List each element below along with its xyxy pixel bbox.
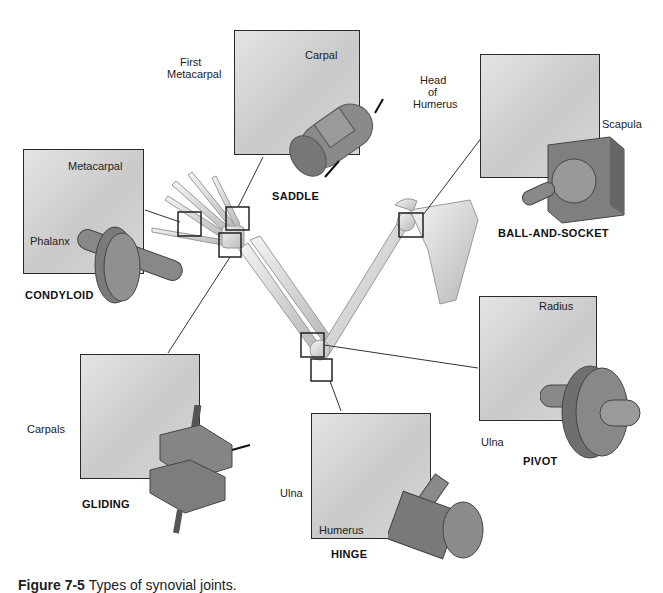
title-gliding: GLIDING xyxy=(82,498,130,510)
title-saddle: SADDLE xyxy=(272,190,319,202)
gliding-model-icon xyxy=(140,405,260,535)
label-ulna-pivot: Ulna xyxy=(481,436,504,448)
label-head: Head xyxy=(420,74,446,86)
label-of: of xyxy=(428,86,437,98)
label-carpal: Carpal xyxy=(305,49,337,61)
label-ulna-hinge: Ulna xyxy=(280,487,303,499)
figure-caption-text: Types of synovial joints. xyxy=(89,577,237,593)
pivot-model-icon xyxy=(540,360,663,460)
label-phalanx: Phalanx xyxy=(30,235,70,247)
condyloid-model-icon xyxy=(70,225,190,315)
label-radius: Radius xyxy=(539,300,573,312)
label-first-metacarpal-2: Metacarpal xyxy=(167,68,221,80)
label-humerus: Humerus xyxy=(413,98,458,110)
title-pivot: PIVOT xyxy=(523,455,558,467)
title-ball-and-socket: BALL-AND-SOCKET xyxy=(498,227,609,239)
figure-caption: Figure 7-5 Types of synovial joints. xyxy=(18,577,237,593)
ball-socket-model-icon xyxy=(518,135,628,225)
figure-number: Figure 7-5 xyxy=(18,577,85,593)
label-scapula: Scapula xyxy=(602,118,642,130)
label-humerus-hinge: Humerus xyxy=(319,524,364,536)
title-condyloid: CONDYLOID xyxy=(25,289,94,301)
label-metacarpal: Metacarpal xyxy=(68,160,122,172)
label-first-metacarpal-1: First xyxy=(180,56,201,68)
saddle-model-icon xyxy=(280,85,390,190)
title-hinge: HINGE xyxy=(331,548,367,560)
hinge-model-icon xyxy=(388,470,488,570)
label-carpals: Carpals xyxy=(27,423,65,435)
